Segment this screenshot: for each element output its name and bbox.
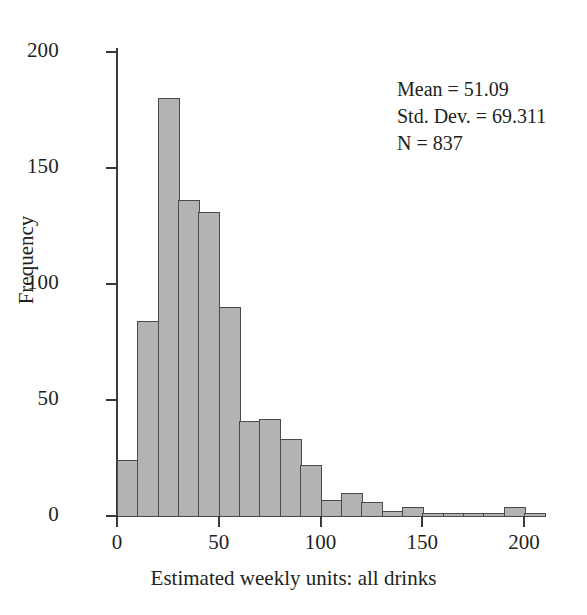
histogram-bar	[178, 200, 200, 517]
histogram-bar	[259, 419, 281, 517]
y-tick: 0	[0, 515, 117, 517]
histogram-bar	[463, 513, 485, 517]
stat-std-dev: Std. Dev. = 69.311	[397, 103, 546, 130]
y-tick-label: 150	[13, 156, 59, 177]
x-tick-mark	[421, 516, 423, 527]
x-tick-mark	[523, 516, 525, 527]
x-tick-mark	[116, 516, 118, 527]
histogram-bar	[158, 98, 180, 517]
histogram-bar	[341, 493, 363, 517]
x-tick-label: 150	[387, 530, 457, 554]
y-tick-mark	[106, 399, 117, 401]
y-axis-title: Frequency	[14, 190, 38, 330]
x-tick-mark	[218, 516, 220, 527]
statistics-annotation: Mean = 51.09 Std. Dev. = 69.311 N = 837	[397, 76, 546, 157]
x-axis-title: Estimated weekly units: all drinks	[0, 566, 587, 590]
histogram-bar	[219, 307, 241, 517]
histogram-bar	[524, 513, 546, 517]
plot-area: 050100150200 050100150200 Estimated week…	[0, 0, 587, 615]
stat-mean: Mean = 51.09	[397, 76, 546, 103]
y-tick-mark	[106, 167, 117, 169]
histogram-bar	[198, 212, 220, 517]
histogram-bar	[382, 511, 404, 517]
histogram-bar	[361, 502, 383, 517]
histogram-bar	[483, 513, 505, 517]
y-tick: 50	[0, 399, 117, 401]
x-tick-label: 200	[489, 530, 559, 554]
y-tick-label: 50	[13, 388, 59, 409]
histogram-bar	[239, 421, 261, 517]
y-tick-mark	[106, 283, 117, 285]
x-tick-label: 100	[286, 530, 356, 554]
y-tick-mark	[106, 51, 117, 53]
stat-n: N = 837	[397, 130, 546, 157]
x-tick-label: 0	[82, 530, 152, 554]
histogram-bar	[300, 465, 322, 517]
y-tick-label: 0	[13, 504, 59, 525]
histogram-bar	[280, 439, 302, 517]
y-tick-label: 200	[13, 40, 59, 61]
x-tick-label: 50	[184, 530, 254, 554]
y-tick: 200	[0, 51, 117, 53]
histogram-bar	[422, 513, 444, 517]
histogram-bar	[137, 321, 159, 517]
x-tick-mark	[320, 516, 322, 527]
histogram-bar	[443, 513, 465, 517]
histogram-bar	[117, 460, 139, 517]
y-tick: 150	[0, 167, 117, 169]
histogram-figure: 050100150200 050100150200 Estimated week…	[0, 0, 587, 615]
histogram-bar	[321, 500, 343, 517]
